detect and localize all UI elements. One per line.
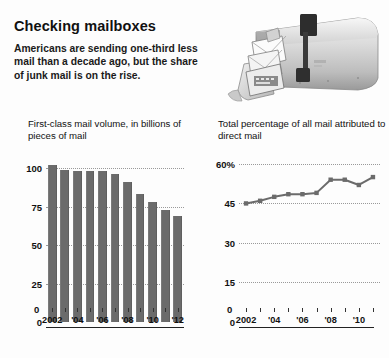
- direct-mail-y-tick-label: 0: [230, 317, 235, 328]
- data-point-marker: [300, 192, 304, 196]
- first-class-mail-x-tick-label: 2002: [42, 315, 62, 325]
- data-point-marker: [357, 183, 361, 187]
- bar: [173, 216, 182, 322]
- direct-mail-x-tick: [359, 308, 360, 312]
- infographic-page: Checking mailboxes Americans are sending…: [0, 0, 389, 358]
- direct-mail-zero-label: 0: [227, 304, 232, 315]
- data-point-marker: [244, 201, 248, 205]
- axis-line-left: [46, 327, 184, 328]
- data-point-marker: [258, 199, 262, 203]
- first-class-mail-x-tick: [165, 308, 166, 312]
- direct-mail-x-tick-label: 2002: [236, 315, 256, 325]
- chart-panel-first-class-mail: First-class mail volume, in billions of …: [10, 110, 195, 350]
- chart-panel-direct-mail: Total percentage of all mail attributed …: [205, 110, 385, 350]
- first-class-mail-x-tick: [128, 308, 129, 312]
- direct-mail-x-tick: [317, 308, 318, 312]
- data-point-marker: [286, 192, 290, 196]
- bar: [86, 171, 95, 322]
- first-class-mail-x-tick-label: '06: [96, 315, 108, 325]
- page-deck: Americans are sending one-third less mai…: [14, 42, 200, 82]
- x-axis-left: 2002'04'06'08'10'120: [46, 308, 184, 328]
- data-point-marker: [328, 178, 332, 182]
- bar: [73, 171, 82, 322]
- first-class-mail-x-tick: [77, 308, 78, 312]
- bar: [161, 210, 170, 322]
- data-point-marker: [314, 191, 318, 195]
- bar: [136, 194, 145, 322]
- direct-mail-x-tick: [274, 308, 275, 312]
- first-class-mail-y-tick-label: 100: [26, 163, 42, 174]
- line-path: [246, 177, 373, 203]
- first-class-mail-x-tick: [178, 308, 179, 312]
- bar: [123, 182, 132, 322]
- first-class-mail-x-tick: [90, 308, 91, 312]
- axis-line-right: [239, 327, 374, 328]
- page-title: Checking mailboxes: [14, 18, 156, 34]
- first-class-mail-y-tick-label: 50: [31, 240, 42, 251]
- first-class-mail-x-tick-label: '12: [172, 315, 184, 325]
- bar: [48, 165, 57, 322]
- first-class-mail-x-tick: [102, 308, 103, 312]
- first-class-mail-x-tick: [140, 308, 141, 312]
- direct-mail-x-tick: [260, 308, 261, 312]
- bar: [98, 171, 107, 322]
- direct-mail-y-tick-label: 30: [224, 237, 235, 248]
- direct-mail-x-tick: [302, 308, 303, 312]
- plot-area-direct-mail: [239, 156, 380, 322]
- line-series-direct-mail: [239, 156, 380, 322]
- direct-mail-x-tick: [345, 308, 346, 312]
- first-class-mail-x-tick: [153, 308, 154, 312]
- first-class-mail-x-tick-label: '04: [71, 315, 83, 325]
- direct-mail-x-tick-label: '06: [296, 315, 308, 325]
- direct-mail-x-tick-label: '10: [353, 315, 365, 325]
- data-point-marker: [272, 195, 276, 199]
- direct-mail-x-tick: [331, 308, 332, 312]
- direct-mail-y-tick-label: 15: [224, 277, 235, 288]
- first-class-mail-y-tick-label: 25: [31, 278, 42, 289]
- plot-area-first-class-mail: [46, 156, 184, 322]
- first-class-mail-y-tick-label: 75: [31, 201, 42, 212]
- direct-mail-x-tick: [288, 308, 289, 312]
- first-class-mail-x-tick: [115, 308, 116, 312]
- first-class-mail-x-tick: [65, 308, 66, 312]
- first-class-mail-x-tick: [52, 308, 53, 312]
- x-axis-right: 2002'04'06'08'100: [239, 308, 380, 328]
- direct-mail-x-tick-label: '04: [268, 315, 280, 325]
- direct-mail-x-tick: [373, 308, 374, 312]
- bar: [111, 174, 120, 322]
- bar: [60, 170, 69, 322]
- data-point-marker: [343, 178, 347, 182]
- data-point-marker: [371, 175, 375, 179]
- y-axis-labels-left: 0255075100: [10, 156, 42, 322]
- direct-mail-y-tick-label: 60%: [216, 158, 235, 169]
- first-class-mail-zero-label: 0: [34, 304, 39, 315]
- y-axis-labels-right: 015304560%: [205, 156, 235, 322]
- first-class-mail-x-tick-label: '10: [146, 315, 158, 325]
- chart-title-first-class-mail: First-class mail volume, in billions of …: [28, 118, 196, 142]
- direct-mail-y-tick-label: 45: [224, 198, 235, 209]
- chart-title-direct-mail: Total percentage of all mail attributed …: [218, 118, 389, 142]
- first-class-mail-x-tick-label: '08: [121, 315, 133, 325]
- open-mailbox-photo: [208, 2, 386, 106]
- direct-mail-x-tick-label: '08: [324, 315, 336, 325]
- bar: [148, 202, 157, 322]
- direct-mail-x-tick: [246, 308, 247, 312]
